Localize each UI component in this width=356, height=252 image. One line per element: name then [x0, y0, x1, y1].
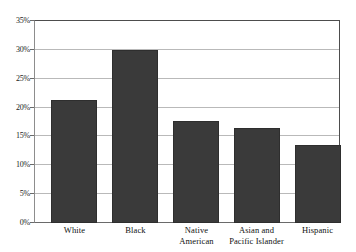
y-axis-tick-label: 35%	[0, 16, 30, 25]
x-axis-category-label: Hispanic	[281, 225, 354, 236]
x-axis-label-line: Hispanic	[281, 225, 354, 236]
bar	[295, 145, 341, 223]
y-axis-tick-label: 25%	[0, 73, 30, 82]
bar	[51, 100, 97, 223]
y-axis-tick-label: 10%	[0, 160, 30, 169]
x-axis: WhiteBlackNativeAmericanAsian andPacific…	[35, 225, 339, 252]
bar	[234, 128, 280, 223]
y-axis-tick-label: 20%	[0, 102, 30, 111]
bar-chart: 0%5%10%15%20%25%30%35% WhiteBlackNativeA…	[0, 0, 356, 252]
bar	[173, 121, 219, 223]
y-axis-tick-label: 0%	[0, 218, 30, 227]
bars-group	[35, 21, 339, 223]
bar	[112, 50, 158, 223]
y-axis-tick-label: 30%	[0, 44, 30, 53]
y-axis-tick-label: 15%	[0, 131, 30, 140]
x-axis-label-line: Pacific Islander	[220, 236, 293, 247]
y-axis-tick-label: 5%	[0, 189, 30, 198]
